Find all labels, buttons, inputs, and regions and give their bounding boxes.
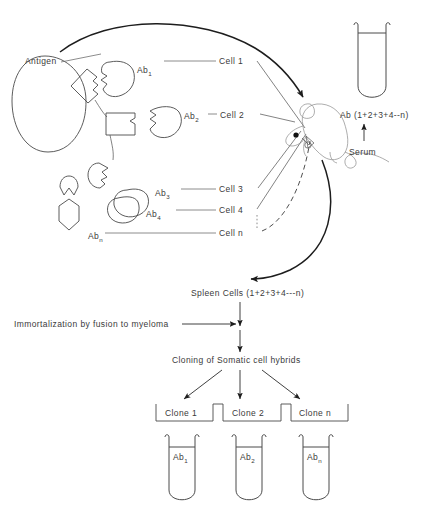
cell-label-3: Cell 3 <box>219 184 243 194</box>
connector-cell-1 <box>257 61 305 128</box>
monoclonal-antibody-diagram: Antigen Ab1 Ab2 Ab3 Ab4 Abn Cell 1 <box>0 0 431 516</box>
antigen-sphere <box>12 56 86 152</box>
antibody-label-2: Ab2 <box>184 111 199 123</box>
clone-tube-1-label: Ab1 <box>173 452 188 464</box>
clone-tubes-group: Ab1 Ab2 Abn <box>165 435 333 500</box>
clone-label-2: Clone 2 <box>232 408 264 418</box>
antibody-label-3: Ab3 <box>155 188 170 200</box>
cell-labels-group: Cell 1 Cell 2 Cell 3 Cell 4 Cell n <box>105 56 244 238</box>
connector-cell-4 <box>257 134 306 209</box>
cell-to-mouse-connectors <box>257 61 310 231</box>
clone-tube-2-label: Ab2 <box>240 452 255 464</box>
clone-tray: Clone 1 Clone 2 Clone n <box>156 404 348 421</box>
cell-label-1: Cell 1 <box>219 56 243 66</box>
antibody-label-4: Ab4 <box>146 209 161 221</box>
clone-tube-1-outline <box>165 435 199 500</box>
clone-tube-n: Abn <box>299 435 333 500</box>
serum-source-label: Serum <box>349 147 376 157</box>
cloning-step-label: Cloning of Somatic cell hybrids <box>172 355 301 365</box>
antigen-epitope-1 <box>71 69 98 103</box>
cell-label-4: Cell 4 <box>219 205 243 215</box>
connector-cell-n-curve <box>262 141 310 231</box>
cloning-arrow-3 <box>262 370 300 399</box>
cloning-arrow-1 <box>184 370 222 399</box>
cell-label-2: Cell 2 <box>220 110 244 120</box>
mouse-eye <box>293 132 298 137</box>
antibody-shape-2 <box>150 107 181 138</box>
antigen-labels: Antigen Ab1 Ab2 Ab3 Ab4 Abn <box>25 54 199 243</box>
antibody-label-n: Abn <box>88 231 103 243</box>
clone-label-n: Clone n <box>299 408 331 418</box>
figure-canvas: Antigen Ab1 Ab2 Ab3 Ab4 Abn Cell 1 <box>0 0 431 516</box>
antibody-shape-4 <box>107 197 139 223</box>
serum-tube-outline <box>354 23 390 98</box>
mouse-ear <box>300 104 315 119</box>
antigen-fragment-n <box>59 199 79 230</box>
clone-label-1: Clone 1 <box>165 408 197 418</box>
clone-tube-2-outline <box>232 435 266 500</box>
antigen-group <box>12 56 135 230</box>
cell-label-n: Cell n <box>219 228 243 238</box>
antigen-epitope-3 <box>88 163 108 188</box>
clone-tube-n-outline <box>299 435 333 500</box>
antigen-stem-2 <box>110 135 113 160</box>
serum-contents-label: Ab (1+2+3+4--n) <box>340 110 409 120</box>
clone-tube-1: Ab1 <box>165 435 199 500</box>
fusion-step-label: Immortalization by fusion to myeloma <box>14 319 169 329</box>
antibody-shape-3 <box>114 189 149 217</box>
antigen-label: Antigen <box>25 56 57 66</box>
antigen-epitope-4 <box>60 176 78 195</box>
antigen-leader-line <box>61 54 101 62</box>
clone-tube-n-label: Abn <box>307 452 322 464</box>
antigen-epitope-2 <box>106 113 135 135</box>
clone-tube-2: Ab2 <box>232 435 266 500</box>
antibody-label-1: Ab1 <box>137 65 152 77</box>
mouse-hind-leg <box>330 152 337 163</box>
connector-cell-2 <box>260 114 295 122</box>
spleen-cells-label: Spleen Cells (1+2+3+4---n) <box>191 288 304 298</box>
antigen-stem-1 <box>95 100 107 117</box>
serum-tube-group: Ab (1+2+3+4--n) Serum <box>340 23 409 157</box>
connector-cell-3 <box>258 131 301 188</box>
spleen-harvest-arrow <box>251 160 331 279</box>
antibody-shape-1 <box>101 61 134 96</box>
